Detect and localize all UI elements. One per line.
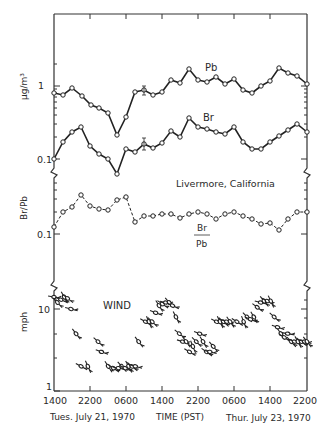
x-axis-label: TIME (PST) xyxy=(155,412,204,422)
series-wind xyxy=(48,291,313,374)
location-label: Livermore, California xyxy=(176,178,275,189)
y-label-ratio: Br/Pb xyxy=(19,196,29,220)
x-date-left: Tues. July 21, 1970 xyxy=(49,412,135,422)
y-ticks-wind xyxy=(54,300,307,391)
ratio-label-numerator: Br xyxy=(197,223,207,233)
svg-text:1400: 1400 xyxy=(258,395,282,406)
y-label-wind: mph xyxy=(19,312,29,332)
y-label-concentration: μg/m³ xyxy=(19,73,29,100)
y-tick-wind-1: 1 xyxy=(46,381,52,392)
svg-text:0600: 0600 xyxy=(222,395,246,406)
series-br xyxy=(52,116,309,176)
series-pb xyxy=(52,66,309,137)
wind-label: WIND xyxy=(103,300,131,311)
svg-text:1400: 1400 xyxy=(43,395,67,406)
svg-text:2200: 2200 xyxy=(186,395,210,406)
series-br-pb-ratio xyxy=(52,193,309,232)
series-label-br: Br xyxy=(203,112,215,123)
svg-text:0600: 0600 xyxy=(114,395,138,406)
ratio-label-denominator: Pb xyxy=(196,239,207,249)
bottom-x-ticks xyxy=(90,386,270,391)
y-tick-wind-10: 10 xyxy=(38,304,50,315)
y-tick-1: 1 xyxy=(38,80,44,91)
chart-figure: Pb Br Livermore, California Br Pb WIND 1… xyxy=(0,0,327,429)
y-tick-ratio-0.1: 0.1 xyxy=(37,229,52,240)
svg-text:2200: 2200 xyxy=(78,395,102,406)
x-date-right: Thur. July 23, 1970 xyxy=(225,413,311,423)
svg-text:1400: 1400 xyxy=(150,395,174,406)
series-label-pb: Pb xyxy=(205,62,217,73)
top-x-ticks xyxy=(90,14,270,19)
x-tick-labels: 1400 2200 0600 1400 2200 0600 1400 2200 xyxy=(43,395,317,406)
svg-text:2200: 2200 xyxy=(293,395,317,406)
y-tick-0.1: 0.1 xyxy=(37,154,52,165)
y-ticks-ratio xyxy=(54,183,307,234)
